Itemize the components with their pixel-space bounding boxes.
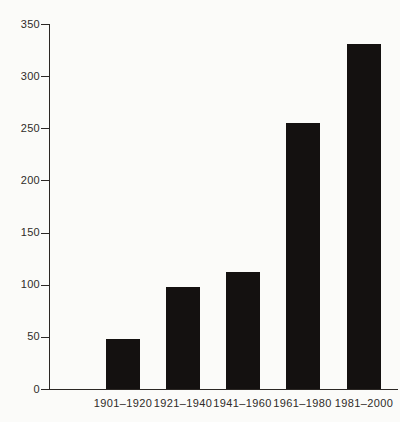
bar-1941-1960 (226, 272, 260, 389)
y-axis-tick-label: 50 (0, 331, 40, 342)
y-axis-tick (41, 76, 49, 77)
x-axis-category-label: 1961–1980 (268, 397, 338, 409)
y-axis-tick-label: 200 (0, 175, 40, 186)
bar-1921-1940 (166, 287, 200, 389)
y-axis-tick-label: 0 (0, 384, 40, 395)
y-axis-tick-label: 250 (0, 123, 40, 134)
bar-1901-1920 (106, 339, 140, 389)
y-axis-tick (41, 337, 49, 338)
x-axis-category-label: 1981–2000 (329, 397, 399, 409)
bar-chart: 0501001502002503003501901–19201921–19401… (0, 0, 400, 422)
y-axis-line (49, 24, 50, 389)
y-axis-tick-label: 300 (0, 71, 40, 82)
x-axis-line (49, 389, 398, 390)
y-axis-tick (41, 285, 49, 286)
y-axis-tick (41, 389, 49, 390)
y-axis-tick (41, 128, 49, 129)
bar-1981-2000 (347, 44, 381, 389)
y-axis-tick-label: 150 (0, 227, 40, 238)
y-axis-tick-label: 100 (0, 279, 40, 290)
y-axis-tick (41, 180, 49, 181)
y-axis-tick-label: 350 (0, 19, 40, 30)
y-axis-tick (41, 233, 49, 234)
y-axis-tick (41, 24, 49, 25)
bar-1961-1980 (286, 123, 320, 389)
